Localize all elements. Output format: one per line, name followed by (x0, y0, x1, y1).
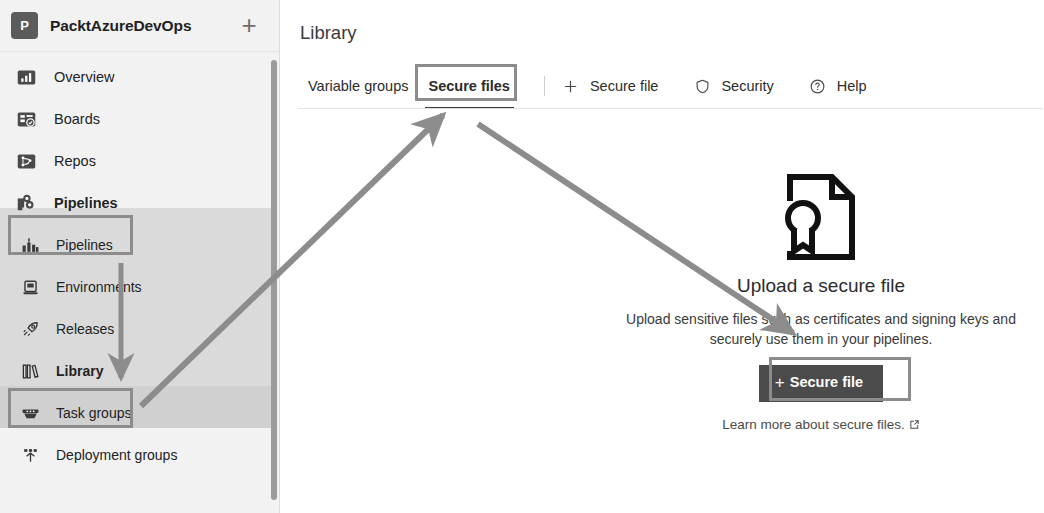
sidebar-item-environments[interactable]: Environments (0, 266, 272, 308)
sidebar-item-releases[interactable]: Releases (0, 308, 272, 350)
tab-variable-groups[interactable]: Variable groups (298, 72, 419, 100)
boards-icon (14, 107, 38, 131)
sidebar-item-boards[interactable]: Boards (0, 98, 272, 140)
empty-state-title: Upload a secure file (611, 275, 1031, 297)
shield-icon (692, 76, 712, 96)
sidebar-item-label: Boards (54, 111, 100, 127)
sidebar-item-label: Overview (54, 69, 114, 85)
sidebar-item-pipelines-sub[interactable]: Pipelines (0, 224, 272, 266)
secure-file-command-label: Secure file (590, 78, 659, 94)
sidebar-item-label: Repos (54, 153, 96, 169)
sidebar-item-label: Library (56, 363, 103, 379)
sidebar-item-overview[interactable]: Overview (0, 56, 272, 98)
main-content: Library Variable groups Secure files Sec… (281, 0, 1044, 513)
sidebar-item-task-groups[interactable]: Task groups (0, 392, 272, 434)
library-icon (18, 359, 42, 383)
question-circle-icon (808, 76, 828, 96)
environments-icon (18, 275, 42, 299)
learn-more-link[interactable]: Learn more about secure files. (611, 417, 1031, 433)
empty-state: Upload a secure file Upload sensitive fi… (611, 165, 1031, 433)
repos-icon (14, 149, 38, 173)
new-item-plus-icon[interactable]: + (237, 14, 261, 38)
project-logo: P (11, 12, 38, 39)
overview-icon (14, 65, 38, 89)
toolbar: Variable groups Secure files Secure file… (281, 64, 1044, 108)
external-link-icon (909, 418, 920, 433)
sidebar-item-label: Releases (56, 321, 114, 337)
releases-icon (18, 317, 42, 341)
page-title: Library (300, 22, 357, 44)
sidebar-item-pipelines[interactable]: Pipelines (0, 182, 272, 224)
add-secure-file-button-label: Secure file (790, 374, 863, 390)
task-groups-icon (18, 401, 42, 425)
pipelines-icon (14, 191, 38, 215)
sidebar-nav: Overview Boards Repos P (0, 56, 272, 476)
sidebar-item-repos[interactable]: Repos (0, 140, 272, 182)
security-command-label: Security (721, 78, 773, 94)
sidebar-item-label: Task groups (56, 405, 131, 421)
sidebar-scrollbar[interactable] (271, 60, 277, 500)
pipelines-sub-icon (18, 233, 42, 257)
learn-more-label: Learn more about secure files. (722, 417, 904, 432)
sidebar-item-deployment-groups[interactable]: Deployment groups (0, 434, 272, 476)
sidebar-item-label: Pipelines (56, 237, 113, 253)
certificate-document-icon (611, 165, 1031, 269)
sidebar: P PacktAzureDevOps + Overview Boards (0, 0, 280, 513)
sidebar-item-library[interactable]: Library (0, 350, 272, 392)
toolbar-bottom-rule (298, 108, 1043, 109)
help-command[interactable]: Help (808, 76, 867, 96)
add-secure-file-button[interactable]: +Secure file (759, 365, 883, 402)
azure-devops-window: P PacktAzureDevOps + Overview Boards (0, 0, 1044, 513)
empty-state-description: Upload sensitive files such as certifica… (611, 309, 1031, 349)
toolbar-divider (544, 76, 545, 96)
plus-icon: + (775, 373, 785, 392)
sidebar-item-label: Environments (56, 279, 142, 295)
plus-icon (561, 76, 581, 96)
security-command[interactable]: Security (692, 76, 773, 96)
sidebar-item-label: Deployment groups (56, 447, 177, 463)
help-command-label: Help (837, 78, 867, 94)
sidebar-item-label: Pipelines (54, 195, 118, 211)
project-name: PacktAzureDevOps (50, 17, 191, 35)
tab-secure-files[interactable]: Secure files (419, 72, 520, 100)
secure-file-command[interactable]: Secure file (561, 76, 659, 96)
deployment-groups-icon (18, 443, 42, 467)
